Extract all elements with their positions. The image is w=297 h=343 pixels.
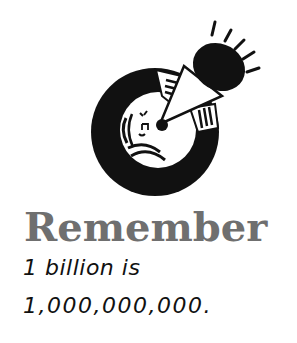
body-line-1: 1 billion is	[23, 254, 140, 282]
megaphone-icon	[0, 0, 297, 205]
remember-heading: Remember	[24, 204, 267, 250]
remember-icon	[0, 0, 297, 205]
body-line-2: 1,000,000,000.	[23, 292, 212, 320]
